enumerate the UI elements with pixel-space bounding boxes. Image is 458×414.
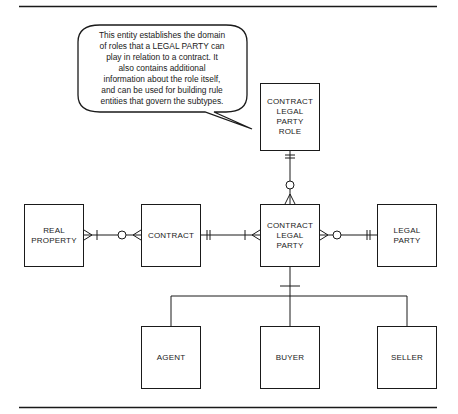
callout-line: This entity establishes the domain <box>86 30 238 41</box>
label-line: LEGAL <box>267 231 313 241</box>
subtype-hierarchy <box>171 267 407 326</box>
entity-label-real-property: REAL PROPERTY <box>24 204 84 267</box>
entity-label-buyer: BUYER <box>260 326 320 389</box>
callout-line: of roles that a LEGAL PARTY can <box>86 41 238 52</box>
callout-text: This entity establishes the domain of ro… <box>86 30 238 107</box>
label-line: ROLE <box>267 127 313 137</box>
relationship-real-property-to-contract <box>84 230 141 240</box>
label-line: LEGAL <box>394 226 421 236</box>
label-line: PROPERTY <box>31 236 76 246</box>
entity-label-seller: SELLER <box>377 326 437 389</box>
label-line: CONTRACT <box>267 97 313 107</box>
entity-label-contract-legal-party-role: CONTRACT LEGAL PARTY ROLE <box>260 83 320 151</box>
label-line: SELLER <box>391 353 423 363</box>
relationship-contract-to-clp <box>201 230 260 240</box>
relationship-clp-to-legal-party <box>320 230 377 240</box>
label-line: PARTY <box>394 236 421 246</box>
label-line: PARTY <box>267 117 313 127</box>
entity-label-contract-legal-party: CONTRACT LEGAL PARTY <box>260 204 320 267</box>
label-line: REAL <box>31 226 76 236</box>
label-line: CONTRACT <box>148 231 194 241</box>
callout-line: and can be used for building rule <box>86 85 238 96</box>
label-line: AGENT <box>157 353 186 363</box>
label-line: BUYER <box>276 353 305 363</box>
callout-line: play in relation to a contract. It <box>86 52 238 63</box>
entity-label-agent: AGENT <box>141 326 201 389</box>
callout-line: also contains additional <box>86 63 238 74</box>
label-line: CONTRACT <box>267 221 313 231</box>
callout-line: entities that govern the subtypes. <box>86 96 238 107</box>
label-line: PARTY <box>267 241 313 251</box>
label-line: LEGAL <box>267 107 313 117</box>
callout-line: information about the role itself, <box>86 74 238 85</box>
entity-label-contract: CONTRACT <box>141 204 201 267</box>
relationship-role-to-clp <box>285 150 295 204</box>
entity-label-legal-party: LEGAL PARTY <box>377 204 437 267</box>
